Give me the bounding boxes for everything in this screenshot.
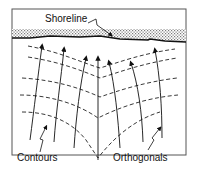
orthogonals-pointer-icon <box>148 128 160 150</box>
orthogonals-label: Orthogonals <box>113 153 167 163</box>
orthogonal-7 <box>155 50 162 138</box>
shoreline-label: Shoreline <box>45 14 87 24</box>
orthogonal-3 <box>74 58 86 148</box>
orthogonal-1 <box>30 46 42 140</box>
orthogonal-arrows <box>30 46 162 160</box>
contours-pointer-icon <box>40 127 46 152</box>
contour-lines <box>20 46 178 158</box>
contours-label: Contours <box>17 153 58 163</box>
